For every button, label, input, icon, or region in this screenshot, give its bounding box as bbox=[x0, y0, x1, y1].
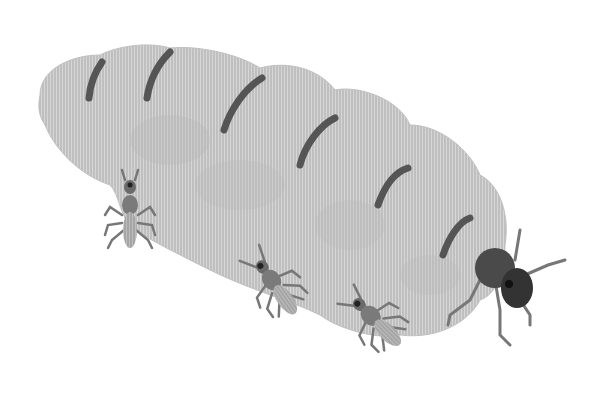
termite-illustration bbox=[0, 0, 609, 419]
illustration-canvas bbox=[0, 0, 609, 419]
